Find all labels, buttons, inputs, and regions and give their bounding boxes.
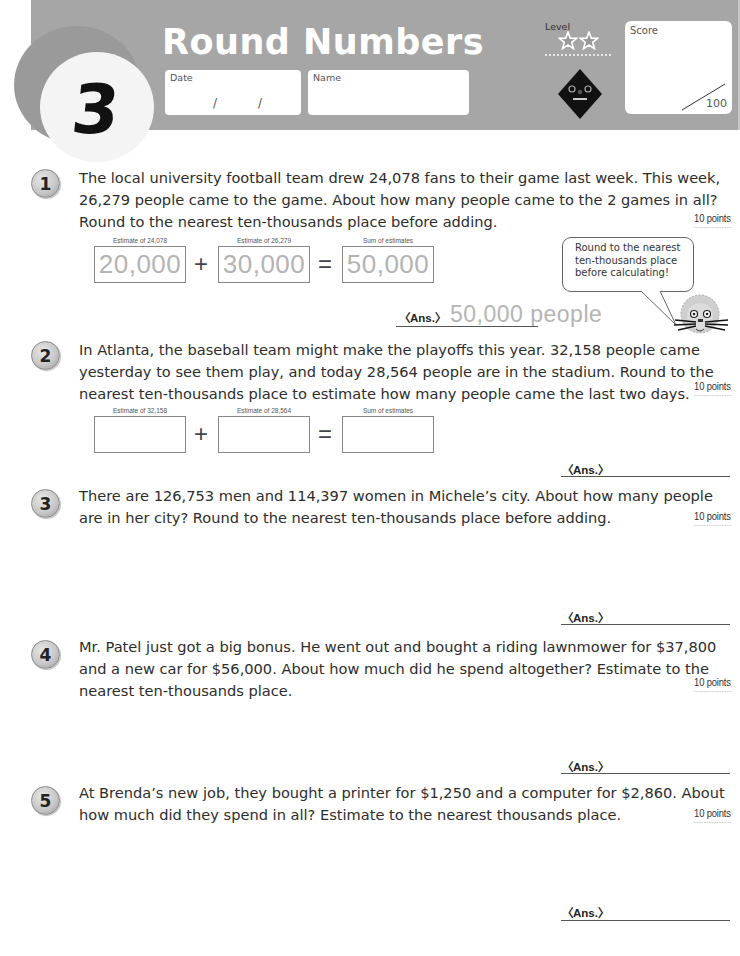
unit-badge-inner: 3 (40, 52, 154, 162)
question-text: In Atlanta, the baseball team might make… (79, 339, 731, 405)
points-label: 10 points (694, 380, 731, 396)
diamond-face-icon (557, 68, 603, 120)
answer-input[interactable] (561, 624, 730, 625)
estimate-label: Estimate of 32,158 (94, 407, 186, 414)
answer-input[interactable] (561, 773, 730, 774)
question-number-badge: 5 (31, 786, 60, 815)
question-number-badge: 3 (31, 489, 60, 518)
page-title: Round Numbers (162, 22, 484, 62)
lion-mascot-icon (670, 292, 730, 340)
answer-input[interactable] (561, 920, 730, 921)
star-icon (579, 31, 599, 50)
points-label: 10 points (694, 212, 731, 228)
sum-input[interactable]: 50,000 (342, 246, 434, 283)
plus-sign: + (194, 420, 208, 448)
question-number-badge: 4 (31, 640, 60, 669)
date-label: Date (170, 72, 193, 83)
score-label: Score (630, 25, 658, 36)
estimate-label: Sum of estimates (342, 407, 434, 414)
answer-label: 〈Ans.〉 (562, 904, 609, 920)
answer-label: 〈Ans.〉 (562, 758, 609, 774)
answer-input[interactable] (561, 476, 730, 477)
question-number-badge: 1 (31, 169, 60, 198)
question-text: Mr. Patel just got a big bonus. He went … (79, 636, 731, 702)
answer-value[interactable]: 50,000 people (450, 301, 602, 328)
answer-label: 〈Ans.〉 (562, 609, 609, 625)
name-label: Name (313, 72, 341, 83)
plus-sign: + (194, 250, 208, 278)
estimate-input[interactable]: 30,000 (218, 246, 310, 283)
answer-label: 〈Ans.〉 (399, 309, 446, 325)
unit-badge: 3 (14, 26, 140, 144)
unit-number: 3 (68, 70, 122, 149)
answer-label: 〈Ans.〉 (562, 461, 609, 477)
estimate-label: Estimate of 24,078 (94, 237, 186, 244)
name-field[interactable]: Name (308, 70, 469, 115)
points-label: 10 points (694, 510, 731, 526)
answer-line (396, 326, 538, 327)
estimate-input[interactable] (94, 416, 186, 453)
points-label: 10 points (694, 807, 731, 823)
estimate-input[interactable]: 20,000 (94, 246, 186, 283)
date-field[interactable]: Date / / (165, 70, 301, 115)
question-text: The local university football team drew … (79, 167, 731, 233)
estimate-input[interactable] (218, 416, 310, 453)
date-separator: / (258, 96, 262, 110)
score-field[interactable]: Score 100 (625, 21, 732, 114)
level-divider (545, 54, 611, 56)
score-total: 100 (706, 97, 727, 110)
question-text: There are 126,753 men and 114,397 women … (79, 485, 731, 529)
date-separator: / (213, 96, 217, 110)
star-icon (558, 31, 578, 50)
estimate-label: Sum of estimates (342, 237, 434, 244)
estimate-label: Estimate of 28,564 (218, 407, 310, 414)
equals-sign: = (318, 420, 332, 448)
sum-input[interactable] (342, 416, 434, 453)
points-label: 10 points (694, 676, 731, 692)
hint-bubble: Round to the nearest ten-thousands place… (562, 237, 694, 292)
equals-sign: = (318, 250, 332, 278)
question-number-badge: 2 (31, 341, 60, 370)
question-text: At Brenda’s new job, they bought a print… (79, 782, 731, 826)
estimate-label: Estimate of 26,279 (218, 237, 310, 244)
level-stars (558, 31, 599, 50)
